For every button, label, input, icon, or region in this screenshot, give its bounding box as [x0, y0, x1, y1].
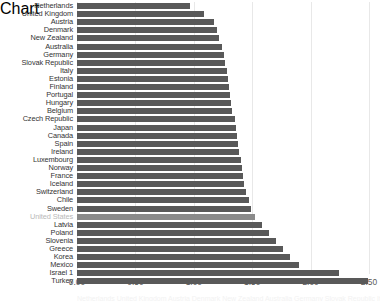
bar	[77, 214, 255, 220]
bar	[77, 125, 236, 131]
bar-row	[77, 229, 369, 237]
category-axis: NetherlandsUnited KingdomAustriaDenmarkN…	[0, 2, 73, 274]
category-label: Turkey	[0, 277, 73, 285]
bar	[77, 141, 238, 147]
bar-row	[77, 10, 369, 18]
bar	[77, 173, 243, 179]
bar-row	[77, 34, 369, 42]
x-tick-label: 0.50	[127, 277, 143, 287]
bar-row	[77, 205, 369, 213]
bar-row	[77, 196, 369, 204]
bar-row	[77, 83, 369, 91]
bar	[77, 35, 219, 41]
bar-row	[77, 2, 369, 10]
x-tick-label: 1.00	[186, 277, 202, 287]
gridline-2.50	[369, 2, 370, 274]
x-tick-label: 1.50	[244, 277, 260, 287]
bar-chart: NetherlandsUnited KingdomAustriaDenmarkN…	[0, 0, 380, 301]
bar	[77, 133, 237, 139]
bar-row	[77, 253, 369, 261]
bar	[77, 116, 235, 122]
bar	[77, 165, 242, 171]
bar-row	[77, 51, 369, 59]
bar	[77, 278, 368, 284]
bar-row	[77, 261, 369, 269]
bar-row	[77, 180, 369, 188]
bar-row	[77, 148, 369, 156]
x-tick-label: 0.00	[69, 277, 85, 287]
plot-area	[77, 2, 369, 274]
bar-row	[77, 156, 369, 164]
bar-row	[77, 269, 369, 277]
bar	[77, 19, 214, 25]
x-tick-label: 2.50	[361, 277, 377, 287]
clipped-footer-text: Netherlands United Kingdom Austria Denma…	[77, 295, 380, 301]
bar	[77, 262, 299, 268]
bar-row	[77, 277, 369, 285]
bar-row	[77, 59, 369, 67]
bar-row	[77, 132, 369, 140]
bar-row	[77, 107, 369, 115]
bar	[77, 52, 224, 58]
bar-row	[77, 124, 369, 132]
bar	[77, 238, 276, 244]
bar	[77, 27, 217, 33]
bar-row	[77, 67, 369, 75]
bar	[77, 76, 228, 82]
bar	[77, 149, 239, 155]
bar-row	[77, 99, 369, 107]
bar-row	[77, 26, 369, 34]
bar	[77, 84, 229, 90]
bar-row	[77, 91, 369, 99]
bar	[77, 206, 251, 212]
bar	[77, 100, 231, 106]
bar-row	[77, 237, 369, 245]
bar-row	[77, 188, 369, 196]
bar	[77, 246, 283, 252]
bar-row	[77, 140, 369, 148]
bar	[77, 222, 262, 228]
bar-row	[77, 245, 369, 253]
bar-row	[77, 75, 369, 83]
bar	[77, 189, 246, 195]
bar	[77, 68, 227, 74]
bar	[77, 254, 290, 260]
bar	[77, 92, 230, 98]
bar	[77, 11, 204, 17]
bar-row	[77, 164, 369, 172]
bar	[77, 270, 339, 276]
bar-row	[77, 115, 369, 123]
bar	[77, 60, 225, 66]
bar	[77, 44, 222, 50]
bar-row	[77, 43, 369, 51]
bar-row	[77, 172, 369, 180]
bar	[77, 108, 232, 114]
bar-row	[77, 213, 369, 221]
x-tick-label: 2.00	[302, 277, 318, 287]
bar	[77, 3, 190, 9]
bar	[77, 157, 241, 163]
bar-row	[77, 221, 369, 229]
bar	[77, 197, 249, 203]
bar	[77, 181, 244, 187]
bar	[77, 230, 269, 236]
bar-row	[77, 18, 369, 26]
